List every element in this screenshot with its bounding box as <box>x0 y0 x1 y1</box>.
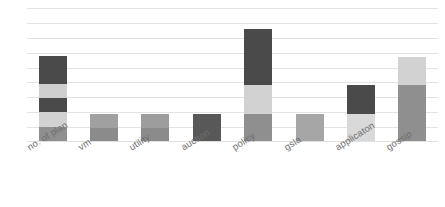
bars-layer <box>27 8 438 142</box>
bar-chart: no. of planvmutilityauctionpolicygslaapp… <box>0 0 445 207</box>
bar-segment <box>141 114 169 128</box>
bar-vm[interactable] <box>90 114 118 142</box>
bar-segment <box>244 29 272 86</box>
bar-segment <box>39 56 67 84</box>
plot-area <box>27 8 438 142</box>
bar-segment <box>347 85 375 113</box>
bar-policy[interactable] <box>244 29 272 142</box>
bar-gossip[interactable] <box>398 57 426 142</box>
bar-segment <box>90 114 118 128</box>
bar-segment <box>39 98 67 112</box>
bar-segment <box>90 128 118 142</box>
bar-segment <box>244 85 272 113</box>
bar-segment <box>398 57 426 85</box>
x-axis-labels: no. of planvmutilityauctionpolicygslaapp… <box>27 143 438 207</box>
bar-segment <box>39 84 67 98</box>
